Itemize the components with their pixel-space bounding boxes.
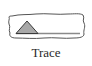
sketch-border	[9, 14, 85, 39]
trace-tool-button[interactable]: Trace	[0, 0, 92, 66]
trace-triangle-icon	[6, 11, 86, 41]
triangle	[16, 21, 38, 34]
tool-label: Trace	[0, 46, 92, 60]
